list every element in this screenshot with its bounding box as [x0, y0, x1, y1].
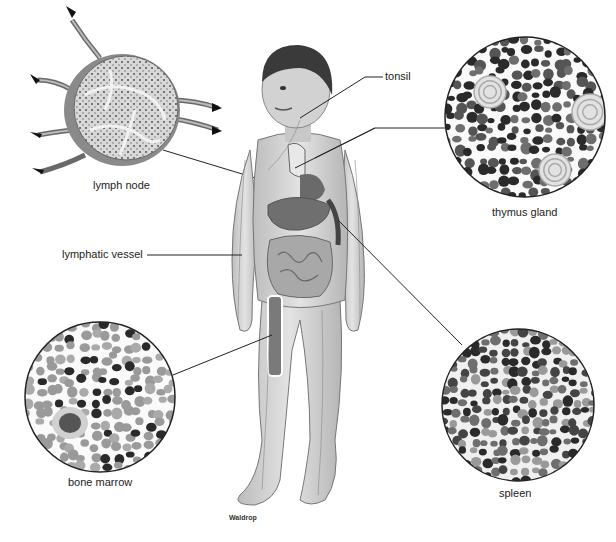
- label-lymph-node: lymph node: [93, 179, 150, 191]
- label-tonsil: tonsil: [385, 70, 411, 82]
- bone-marrow-leader-line: [173, 335, 272, 375]
- bone-marrow-inset: [20, 318, 179, 477]
- label-spleen: spleen: [499, 487, 531, 499]
- label-bone-marrow: bone marrow: [68, 476, 132, 488]
- spleen-inset: [437, 326, 604, 489]
- label-thymus-gland: thymus gland: [492, 206, 557, 218]
- lymph-node-inset: [30, 6, 222, 174]
- artist-signature: Waldrop: [229, 514, 257, 521]
- lymphatic-system-diagram: lymph node tonsil thymus gland lymphatic…: [0, 0, 616, 542]
- thymus-inset: [439, 34, 610, 202]
- illustration: [0, 0, 616, 542]
- label-lymphatic-vessel: lymphatic vessel: [62, 248, 143, 260]
- child-figure: [232, 45, 364, 505]
